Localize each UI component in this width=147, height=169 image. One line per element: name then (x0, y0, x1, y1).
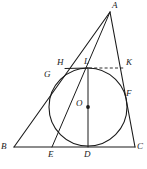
side-AB-line (14, 12, 110, 147)
label-point-C: C (137, 142, 143, 151)
label-point-K: K (126, 58, 132, 67)
label-point-L: L (84, 57, 89, 66)
label-point-F: F (126, 89, 132, 98)
chord-HL-line (65, 68, 88, 69)
label-point-B: B (1, 142, 7, 151)
side-AC-line (110, 12, 135, 147)
label-point-A: A (112, 1, 118, 10)
geometry-figure: A B C D E F G H K L O (0, 0, 147, 169)
label-point-G: G (44, 70, 51, 79)
label-point-H: H (57, 58, 64, 67)
figure-canvas (0, 0, 147, 169)
label-point-D: D (84, 150, 91, 159)
label-point-E: E (48, 150, 54, 159)
label-point-O: O (76, 99, 83, 108)
center-point-marker (86, 105, 90, 109)
